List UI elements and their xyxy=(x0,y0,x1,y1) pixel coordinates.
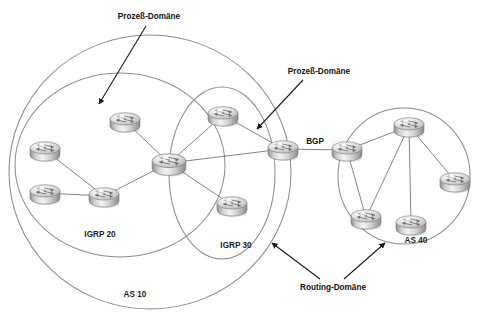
router-igrp20-west xyxy=(30,142,60,162)
router-as40-south xyxy=(396,216,426,236)
domain-label-as10: AS 10 xyxy=(124,290,147,299)
ann-prozess-1-label: Prozeß-Domäne xyxy=(118,12,181,21)
router-as40-north xyxy=(394,118,424,138)
routers-layer xyxy=(30,107,470,236)
router-bgp-border-as40 xyxy=(332,142,362,162)
router-igrp20-southwest xyxy=(30,185,60,205)
link-label-bgp: BGP xyxy=(306,137,324,146)
ann-prozess-2-label: Prozeß-Domäne xyxy=(288,67,351,76)
ann-prozess-2-leader-0 xyxy=(257,80,303,129)
domain-boundaries-layer xyxy=(9,35,470,309)
router-igrp20-south xyxy=(89,188,119,208)
ann-routing-label: Routing-Domäne xyxy=(300,283,366,292)
network-topology-diagram: AS 10IGRP 20IGRP 30AS 40BGPProzeß-Domäne… xyxy=(0,0,499,321)
ann-routing-leader-0 xyxy=(272,243,320,279)
ann-routing-leader-1 xyxy=(344,243,385,279)
diagram-canvas: AS 10IGRP 20IGRP 30AS 40BGPProzeß-Domäne… xyxy=(0,0,499,321)
link-r-as40-n-to-r-as40-s xyxy=(409,126,411,224)
router-bgp-border-as10 xyxy=(268,141,298,161)
router-igrp20-top xyxy=(110,113,140,133)
domain-label-as40: AS 40 xyxy=(405,236,428,245)
router-core-hub xyxy=(152,154,186,177)
domain-label-igrp20: IGRP 20 xyxy=(84,230,116,239)
router-igrp30-south xyxy=(217,197,247,217)
router-as40-southwest xyxy=(351,210,381,230)
domain-label-igrp30: IGRP 30 xyxy=(220,241,252,250)
domain-boundary-as10 xyxy=(9,35,291,309)
router-igrp30-north xyxy=(208,107,238,127)
router-as40-east xyxy=(440,173,470,193)
